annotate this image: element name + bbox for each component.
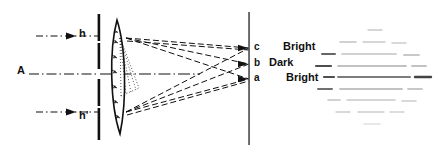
label-axis-a: A	[17, 65, 25, 76]
label-band-bright-bottom: Bright	[286, 72, 318, 83]
label-band-bright-top: Bright	[283, 41, 315, 52]
label-point-c: c	[254, 42, 260, 52]
scan-smudge	[316, 30, 431, 124]
ray-arrowheads-at-screen	[238, 45, 248, 82]
optics-ray-diagram: h h' A c b a Bright Dark Bright	[0, 0, 437, 150]
arrowhead-top-ray	[66, 32, 76, 39]
incident-ray-top	[36, 32, 99, 39]
refracted-rays	[126, 38, 249, 115]
incident-ray-bottom	[36, 108, 99, 115]
screen-line	[248, 12, 250, 145]
aperture-bar	[98, 14, 101, 140]
arrowhead-bottom-ray	[66, 108, 76, 115]
label-band-dark: Dark	[269, 57, 293, 68]
label-point-a: a	[254, 73, 260, 83]
biconvex-lens	[112, 20, 139, 134]
diagram-canvas	[0, 0, 437, 150]
label-point-b: b	[254, 58, 260, 68]
label-h: h	[79, 28, 86, 39]
label-h-prime: h'	[79, 110, 88, 121]
